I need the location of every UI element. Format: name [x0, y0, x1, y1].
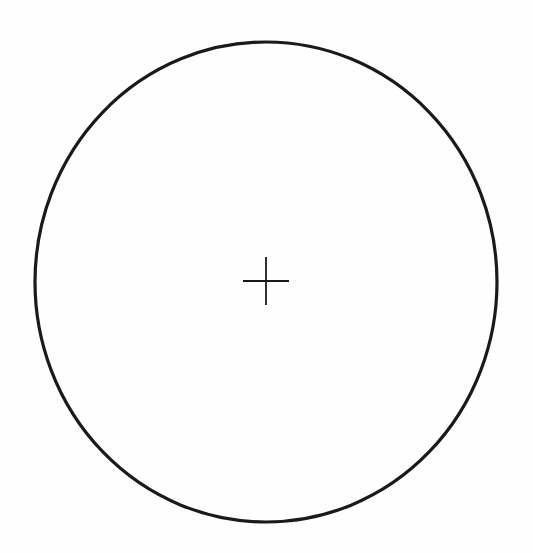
- diagram-canvas: [0, 0, 533, 553]
- circle-diagram: [0, 0, 533, 553]
- center-crosshair-icon: [243, 257, 289, 305]
